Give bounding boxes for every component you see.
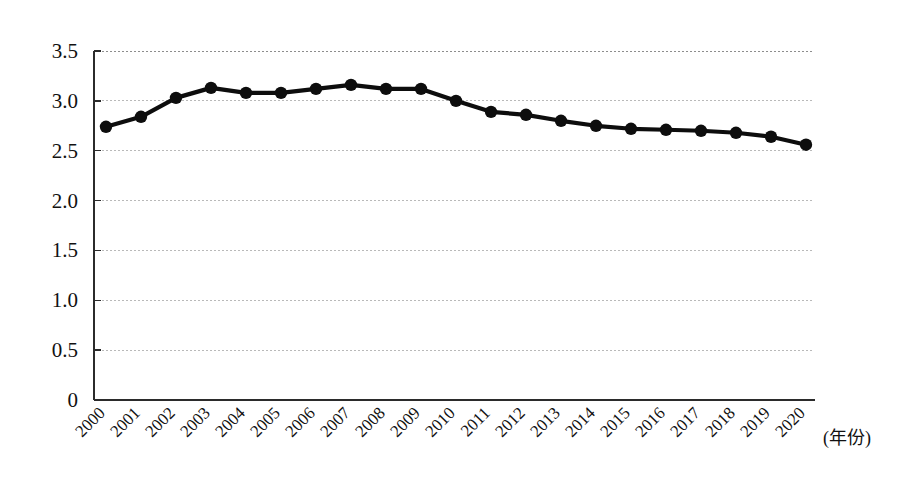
x-axis-caption: (年份) — [823, 428, 871, 449]
y-axis-tick-label-0: 0 — [68, 388, 79, 412]
x-axis-tick-label-2009: 2009 — [386, 403, 423, 440]
x-axis-tick-label-2020: 2020 — [771, 403, 808, 440]
data-point-2015 — [625, 123, 637, 135]
x-axis-tick-label-2015: 2015 — [596, 403, 633, 440]
data-point-2010 — [450, 95, 462, 107]
data-point-2001 — [135, 111, 147, 123]
x-axis-tick-label-2002: 2002 — [141, 403, 178, 440]
x-axis-tick-label-2003: 2003 — [176, 403, 213, 440]
x-axis-tick-label-2008: 2008 — [351, 403, 388, 440]
data-point-2017 — [695, 125, 707, 137]
x-axis-tick-label-2018: 2018 — [701, 403, 738, 440]
data-point-2014 — [590, 120, 602, 132]
x-axis-tick-label-2013: 2013 — [526, 403, 563, 440]
data-point-2006 — [310, 83, 322, 95]
data-point-2012 — [520, 109, 532, 121]
line-chart-figure: 00.51.01.52.02.53.03.5 20002001200220032… — [0, 0, 897, 478]
data-point-2011 — [485, 106, 497, 118]
y-axis-tick-label-1.5: 1.5 — [52, 238, 78, 262]
x-axis-tick-labels: 2000200120022003200420052006200720082009… — [71, 403, 808, 441]
y-axis-tick-label-2.5: 2.5 — [52, 139, 78, 163]
y-axis-tick-label-0.5: 0.5 — [52, 338, 78, 362]
x-axis-tick-label-2012: 2012 — [491, 403, 528, 440]
data-point-2005 — [275, 87, 287, 99]
data-series-group — [100, 79, 812, 151]
x-axis-tick-label-2005: 2005 — [246, 403, 283, 440]
x-axis-tick-label-2011: 2011 — [457, 403, 494, 440]
x-axis-tick-label-2017: 2017 — [666, 403, 704, 441]
x-axis-tick-label-2019: 2019 — [736, 403, 773, 440]
y-axis-tick-label-3.5: 3.5 — [52, 39, 78, 63]
x-axis-tick-label-2007: 2007 — [316, 403, 354, 441]
data-point-2009 — [415, 83, 427, 95]
data-point-2002 — [170, 92, 182, 104]
y-axis-tick-label-2: 2.0 — [52, 189, 78, 213]
data-point-2004 — [240, 87, 252, 99]
chart-canvas: 00.51.01.52.02.53.03.5 20002001200220032… — [0, 0, 897, 478]
data-point-2008 — [380, 83, 392, 95]
data-point-2020 — [800, 139, 812, 151]
data-point-2003 — [205, 82, 217, 94]
x-axis-tick-label-2016: 2016 — [631, 403, 668, 440]
x-axis-tick-label-2001: 2001 — [106, 403, 143, 440]
data-point-2019 — [765, 131, 777, 143]
x-axis-tick-label-2010: 2010 — [421, 403, 458, 440]
data-point-2007 — [345, 79, 357, 91]
data-point-2013 — [555, 115, 567, 127]
data-point-2018 — [730, 127, 742, 139]
y-axis-tick-label-1: 1.0 — [52, 288, 78, 312]
data-point-2016 — [660, 124, 672, 136]
x-axis-tick-label-2006: 2006 — [281, 403, 318, 440]
y-axis-tick-label-3: 3.0 — [52, 89, 78, 113]
x-axis-tick-label-2014: 2014 — [561, 403, 599, 441]
y-axis-tick-labels: 00.51.01.52.02.53.03.5 — [52, 39, 78, 412]
x-axis-tick-label-2004: 2004 — [211, 403, 249, 441]
data-point-2000 — [100, 121, 112, 133]
